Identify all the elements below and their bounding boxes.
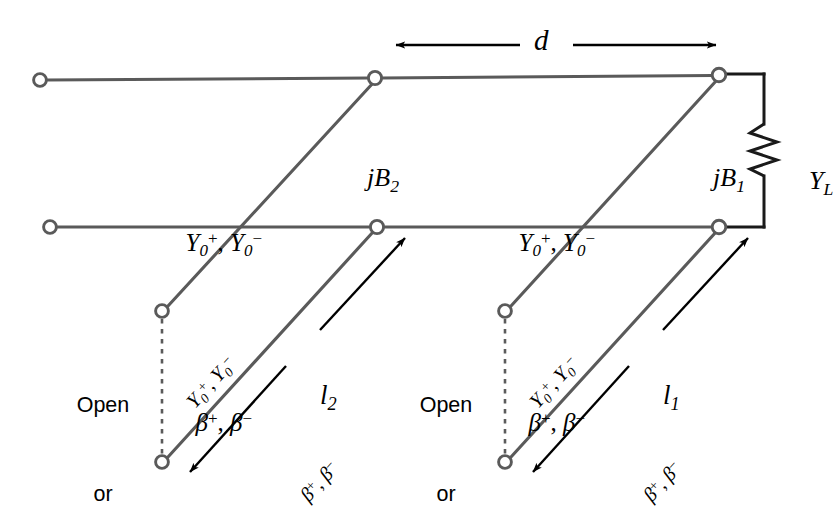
right-Y-symbol-1: Y: [519, 229, 533, 256]
dimension-d-label: d: [534, 26, 549, 55]
YL-Y: Y: [809, 166, 823, 195]
stub2-desc-line-2: or: [43, 480, 163, 506]
node-junction2-top: [368, 71, 381, 84]
node-junction2-bottom: [370, 220, 383, 233]
left-Y-sup-minus: −: [252, 228, 262, 247]
YL-subscript: L: [823, 179, 833, 199]
top-conductor-right-segment: [381, 76, 713, 79]
node-junction1-bottom: [712, 220, 726, 234]
left-Y-sup-plus: +: [208, 228, 218, 247]
dimension-l1-upper-arrow: [663, 238, 748, 330]
jB2-subscript: 2: [390, 176, 399, 196]
jB1-subscript: 1: [736, 176, 745, 196]
top-conductor-left-segment: [46, 78, 369, 80]
stub2-Y-sup-minus: −: [218, 352, 234, 368]
node-input-top: [34, 74, 47, 87]
right-Y-symbol-2: Y: [563, 229, 577, 256]
stub1-Y-sup-minus: −: [561, 352, 577, 368]
right-Y-sub-1: 0: [532, 241, 541, 260]
dimension-l2-upper-arrow: [320, 238, 405, 330]
left-Y-symbol-2: Y: [230, 229, 244, 256]
jB1-B: B: [720, 163, 736, 192]
diagram-root: d Y0+, Y0− β+, β− Y0+, Y0− β+, β− jB2 jB…: [0, 0, 836, 506]
susceptance-1-label: jB1: [687, 139, 745, 221]
load-admittance-label: YL: [783, 142, 833, 224]
right-Y-sup-minus: −: [585, 228, 595, 247]
load-resistor-zigzag: [750, 124, 777, 176]
right-Y-sup-plus: +: [541, 228, 551, 247]
left-Y-symbol-1: Y: [186, 229, 200, 256]
susceptance-2-label: jB2: [341, 139, 399, 221]
jB2-B: B: [374, 163, 390, 192]
node-junction1-top: [712, 68, 726, 82]
left-Y-sub-1: 0: [199, 241, 208, 260]
node-input-bottom: [44, 221, 57, 234]
